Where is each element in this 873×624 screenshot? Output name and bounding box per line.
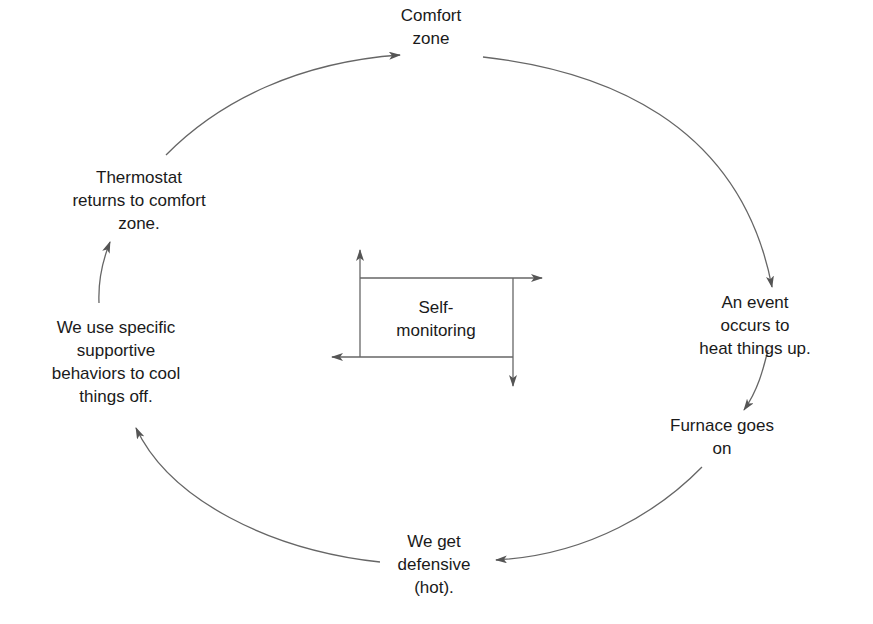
- node-comfort-zone: Comfort zone: [401, 4, 461, 50]
- arrow-furnace-to-defensive: [496, 467, 702, 560]
- node-thermostat-returns: Thermostat returns to comfort zone.: [72, 166, 205, 235]
- node-we-get-defensive: We get defensive (hot).: [398, 530, 471, 599]
- arrow-comfort-to-event: [483, 57, 772, 287]
- arrow-thermostat-to-comfort: [166, 55, 400, 155]
- node-supportive-behaviors: We use specific supportive behaviors to …: [52, 316, 181, 408]
- center-self-monitoring: Self- monitoring: [396, 296, 475, 342]
- arrow-supportive-to-thermostat: [99, 242, 110, 303]
- node-event-heats-up: An event occurs to heat things up.: [696, 291, 814, 360]
- arrow-defensive-to-supportive: [136, 428, 380, 562]
- node-furnace-on: Furnace goes on: [670, 414, 774, 460]
